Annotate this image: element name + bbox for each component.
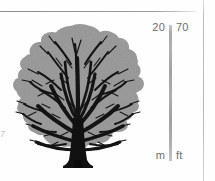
scale-top-imperial-value: 70 bbox=[176, 21, 200, 33]
margin-page-mark: 7 bbox=[0, 128, 7, 140]
scale-bar bbox=[169, 25, 172, 161]
top-divider-rule bbox=[0, 11, 196, 12]
scale-metric-unit-label: m bbox=[143, 149, 165, 161]
tree-svg bbox=[8, 22, 148, 174]
scale-imperial-unit-label: ft bbox=[176, 149, 200, 161]
figure-page: 7 bbox=[0, 0, 215, 181]
right-divider-rule bbox=[203, 0, 204, 181]
scale-top-metric-value: 20 bbox=[143, 21, 165, 33]
height-scale: 20 70 m ft bbox=[140, 18, 200, 168]
tree-illustration bbox=[8, 22, 148, 174]
